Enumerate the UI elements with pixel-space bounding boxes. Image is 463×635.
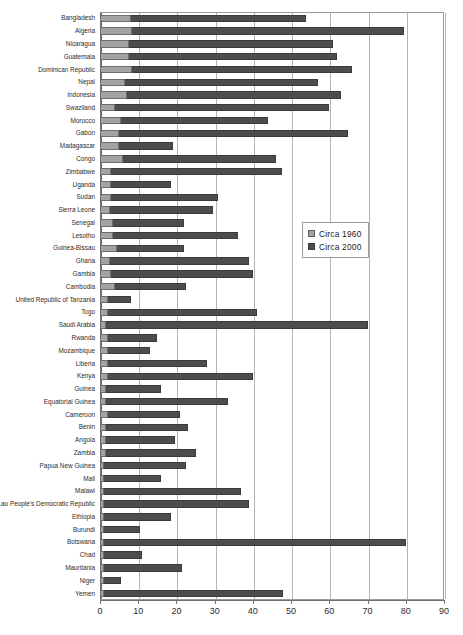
bar-row [100, 562, 444, 575]
category-label: Gambia [73, 270, 95, 278]
bar-circa-1960 [100, 130, 119, 137]
bar-circa-1960 [100, 373, 108, 380]
category-label: Swaziland [66, 104, 95, 112]
legend-label-1960: Circa 1960 [319, 229, 362, 239]
category-label: Burundi [73, 526, 95, 534]
bar-circa-2000 [100, 539, 406, 546]
category-label: Nepal [78, 78, 95, 86]
category-label: Algeria [75, 27, 95, 35]
bar-circa-1960 [100, 40, 129, 47]
category-label: Cambodia [66, 283, 95, 291]
bar-row [100, 12, 444, 25]
bar-circa-2000 [100, 66, 352, 73]
bar-row [100, 447, 444, 460]
category-label: Lesotho [72, 232, 95, 240]
bar-row [100, 127, 444, 140]
category-label: Equatorial Guinea [44, 398, 95, 406]
bar-circa-2000 [100, 15, 306, 22]
bar-circa-1960 [100, 91, 127, 98]
bar-row [100, 178, 444, 191]
bar-circa-2000 [100, 270, 253, 277]
bar-circa-2000 [100, 398, 228, 405]
bar-circa-1960 [100, 513, 104, 520]
bar-row [100, 229, 444, 242]
bar-circa-1960 [100, 27, 132, 34]
bar-row [100, 472, 444, 485]
bar-row [100, 217, 444, 230]
x-tick-80 [406, 600, 407, 604]
legend-item: Circa 2000 [308, 240, 362, 253]
bar-row [100, 89, 444, 102]
bar-circa-1960 [100, 488, 104, 495]
x-tick-label: 50 [276, 606, 306, 616]
x-tick-50 [291, 600, 292, 604]
category-label: Togo [81, 308, 95, 316]
x-tick-10 [138, 600, 139, 604]
x-tick-90 [444, 600, 445, 604]
category-label: Sudan [77, 193, 95, 201]
bar-circa-1960 [100, 577, 104, 584]
bar-circa-2000 [100, 117, 268, 124]
bar-row [100, 101, 444, 114]
category-label: Ethiopia [72, 513, 95, 521]
bar-circa-2000 [100, 334, 157, 341]
bar-circa-2000 [100, 360, 207, 367]
bar-circa-2000 [100, 194, 218, 201]
bar-row [100, 587, 444, 600]
bar-circa-2000 [100, 91, 341, 98]
bar-circa-1960 [100, 194, 111, 201]
bar-circa-2000 [100, 309, 257, 316]
bar-circa-2000 [100, 526, 140, 533]
bar-row [100, 76, 444, 89]
category-label: Benin [79, 423, 95, 431]
x-tick-30 [215, 600, 216, 604]
category-label: Mali [83, 475, 95, 483]
bar-circa-2000 [100, 53, 337, 60]
category-label: Cameroon [65, 411, 95, 419]
bar-circa-1960 [100, 168, 111, 175]
bar-row [100, 191, 444, 204]
bar-circa-2000 [100, 564, 182, 571]
category-label: Papua New Guinea [40, 462, 95, 470]
category-label: Ghana [76, 257, 95, 265]
x-axis-line [100, 600, 444, 601]
bar-row [100, 165, 444, 178]
bar-circa-1960 [100, 53, 129, 60]
category-label: Liberia [76, 360, 95, 368]
category-label: Yemen [75, 590, 95, 598]
bar-circa-2000 [100, 321, 368, 328]
bar-row [100, 459, 444, 472]
bar-row [100, 536, 444, 549]
bar-circa-1960 [100, 500, 104, 507]
bar-circa-1960 [100, 15, 131, 22]
bar-circa-1960 [100, 411, 108, 418]
bar-circa-2000 [100, 513, 171, 520]
bar-circa-1960 [100, 142, 119, 149]
bar-row [100, 280, 444, 293]
bar-circa-1960 [100, 181, 111, 188]
category-label: Guatemala [64, 53, 95, 61]
bar-row [100, 242, 444, 255]
bar-row [100, 319, 444, 332]
bar-row [100, 395, 444, 408]
bar-row [100, 63, 444, 76]
grouped-bar-chart: BangladeshAlgeriaNicaraguaGuatemalaDomin… [0, 0, 463, 635]
bar-circa-1960 [100, 79, 125, 86]
bar-circa-1960 [100, 117, 121, 124]
bar-row [100, 153, 444, 166]
category-label: Sierra Leone [58, 206, 95, 214]
bar-circa-1960 [100, 564, 104, 571]
bar-circa-1960 [100, 475, 104, 482]
category-label: Bangladesh [61, 14, 95, 22]
category-label: Mauritania [65, 564, 95, 572]
x-tick-label: 80 [391, 606, 421, 616]
bar-circa-2000 [100, 475, 161, 482]
category-label: Senegal [72, 219, 95, 227]
category-label: Kenya [77, 372, 95, 380]
x-tick-label: 90 [429, 606, 459, 616]
x-tick-label: 20 [161, 606, 191, 616]
bar-circa-1960 [100, 66, 132, 73]
bar-circa-1960 [100, 526, 104, 533]
category-label: United Republic of Tanzania [16, 296, 95, 304]
category-label: Uganda [73, 181, 95, 189]
